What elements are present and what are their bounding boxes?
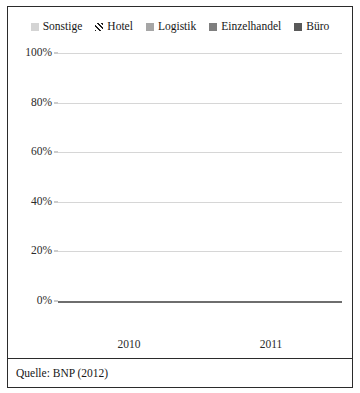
- x-axis-spacer: [12, 336, 58, 358]
- x-axis-labels: 20102011: [58, 336, 342, 358]
- gridline: [58, 53, 342, 54]
- figure-frame: Sonstige Hotel Logistik Einzelhandel Bür…: [7, 6, 353, 388]
- legend-swatch-logistik-icon: [146, 23, 154, 31]
- axis-baseline: [58, 301, 342, 303]
- legend-swatch-einzelhandel-icon: [209, 23, 217, 31]
- plot-grid: [58, 53, 342, 301]
- y-axis: 0%20%40%60%80%100%: [12, 53, 58, 301]
- gridline: [58, 202, 342, 203]
- y-tick-label: 20%: [31, 246, 52, 258]
- plot-area: 0%20%40%60%80%100%: [8, 47, 352, 336]
- bar-column: [92, 53, 166, 301]
- y-tick-label: 60%: [31, 146, 52, 158]
- y-tick-label: 40%: [31, 196, 52, 208]
- gridline: [58, 103, 342, 104]
- x-tick-label: 2010: [92, 339, 166, 351]
- legend-label-sonstige: Sonstige: [43, 21, 83, 33]
- x-tick-label: 2011: [234, 339, 308, 351]
- chart-legend: Sonstige Hotel Logistik Einzelhandel Bür…: [8, 7, 352, 47]
- bar-column: [234, 53, 308, 301]
- legend-label-logistik: Logistik: [158, 21, 196, 33]
- legend-swatch-sonstige-icon: [31, 23, 39, 31]
- legend-item-sonstige[interactable]: Sonstige: [31, 21, 83, 33]
- legend-item-buero[interactable]: Büro: [294, 21, 329, 33]
- gridline: [58, 251, 342, 252]
- legend-label-buero: Büro: [306, 21, 329, 33]
- source-caption: Quelle: BNP (2012): [8, 359, 352, 387]
- figure-container: Sonstige Hotel Logistik Einzelhandel Bür…: [0, 0, 360, 393]
- legend-label-hotel: Hotel: [107, 21, 133, 33]
- y-tick-label: 80%: [31, 97, 52, 109]
- gridline: [58, 152, 342, 153]
- legend-label-einzelhandel: Einzelhandel: [221, 21, 281, 33]
- legend-item-einzelhandel[interactable]: Einzelhandel: [209, 21, 281, 33]
- y-tick-label: 100%: [25, 47, 52, 59]
- bar-group: [58, 53, 342, 301]
- legend-item-hotel[interactable]: Hotel: [95, 21, 133, 33]
- x-axis: 20102011: [8, 336, 352, 358]
- legend-swatch-buero-icon: [294, 23, 302, 31]
- legend-swatch-hotel-icon: [95, 23, 103, 31]
- y-tick-label: 0%: [37, 295, 52, 307]
- legend-item-logistik[interactable]: Logistik: [146, 21, 196, 33]
